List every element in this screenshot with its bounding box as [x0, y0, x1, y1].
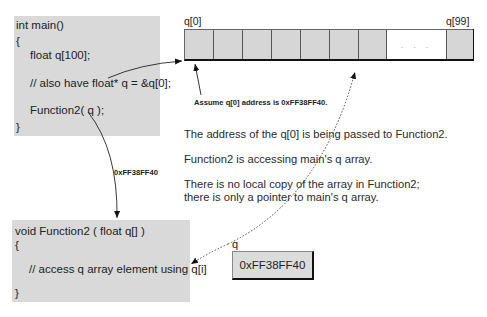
arrows-layer: [0, 0, 487, 317]
arrow-call-to-function2: [88, 112, 117, 218]
arrow-assume-to-q0: [195, 64, 201, 95]
arrow-to-array: [108, 61, 182, 78]
arrow-pointer-to-function2: [191, 244, 228, 264]
arrow-pointer-to-array: [228, 72, 355, 244]
